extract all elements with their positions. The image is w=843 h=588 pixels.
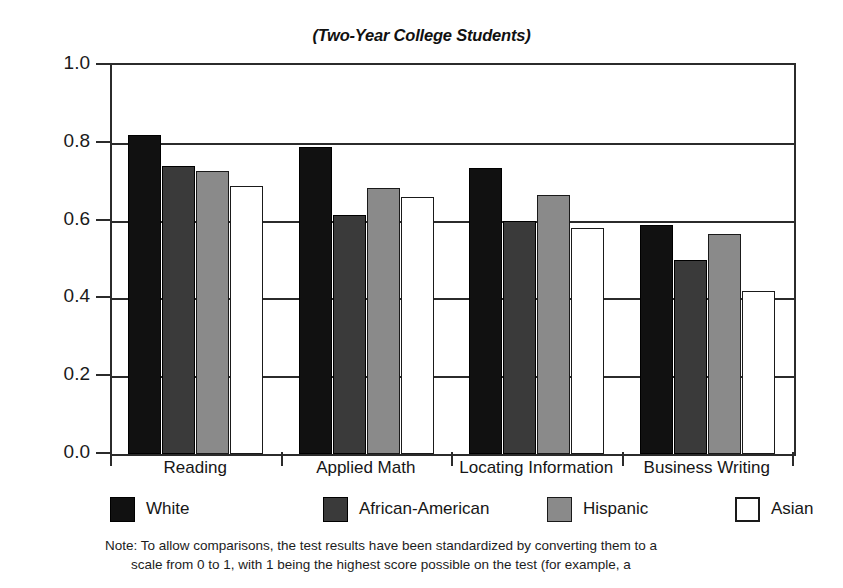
legend-label-asian: Asian [771,499,814,519]
bar-locating-information-hispanic [537,195,570,454]
bar-business-writing-white [640,225,673,455]
bar-business-writing-hispanic [708,234,741,454]
bar-applied-math-asian [401,197,434,454]
y-tick-label-0.8: 0.8 [20,130,90,152]
chart-title: (Two-Year College Students) [0,26,843,45]
note-line-1: Note: To allow comparisons, the test res… [105,536,765,555]
y-tick-label-0.2: 0.2 [20,363,90,385]
y-tick-label-0.6: 0.6 [20,208,90,230]
bar-applied-math-african-american [333,215,366,454]
legend-label-hispanic: Hispanic [583,499,648,519]
x-category-label-applied-math: Applied Math [281,458,452,478]
x-category-label-business-writing: Business Writing [622,458,793,478]
bars-layer [112,65,794,454]
legend-item-african-american[interactable]: African-American [323,495,489,523]
bar-reading-hispanic [196,171,229,454]
bar-reading-asian [230,186,263,454]
bar-applied-math-hispanic [367,188,400,454]
chart-legend: WhiteAfrican-AmericanHispanicAsian [110,495,810,525]
y-tick-label-0.4: 0.4 [20,285,90,307]
legend-item-hispanic[interactable]: Hispanic [547,495,648,523]
legend-swatch-icon-hispanic [547,497,572,522]
legend-item-asian[interactable]: Asian [735,495,814,523]
bar-locating-information-asian [571,228,604,454]
plot-area [110,63,796,456]
legend-swatch-icon-white [110,497,135,522]
x-category-label-locating-information: Locating Information [451,458,622,478]
legend-label-white: White [146,499,189,519]
x-category-label-reading: Reading [110,458,281,478]
bar-business-writing-african-american [674,260,707,455]
note-line-2: scale from 0 to 1, with 1 being the high… [105,555,765,574]
bar-reading-african-american [162,166,195,454]
x-tick-4 [792,452,794,466]
y-tick-label-0.0: 0.0 [20,441,90,463]
bar-locating-information-white [469,168,502,454]
legend-swatch-icon-asian [735,497,760,522]
bar-chart-figure: (Two-Year College Students) 1.00.80.60.4… [0,0,843,588]
y-tick-label-1.0: 1.0 [20,52,90,74]
bar-applied-math-white [299,147,332,454]
bar-locating-information-african-american [503,221,536,454]
legend-swatch-icon-african-american [323,497,348,522]
legend-label-african-american: African-American [359,499,489,519]
bar-reading-white [128,135,161,454]
chart-note: Note: To allow comparisons, the test res… [105,536,765,574]
legend-item-white[interactable]: White [110,495,189,523]
bar-business-writing-asian [742,291,775,454]
